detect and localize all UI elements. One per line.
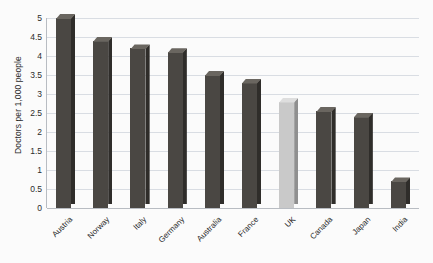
bar-face xyxy=(354,117,369,208)
bar-slot: Norway xyxy=(93,18,112,208)
y-tick-label: 3 xyxy=(37,89,42,99)
bar-uk[interactable] xyxy=(279,102,298,208)
bar-side xyxy=(257,79,261,204)
y-tick-label: 1.5 xyxy=(30,146,42,156)
bar-face xyxy=(56,18,71,208)
bar-side xyxy=(108,37,112,204)
bar-face xyxy=(391,181,406,208)
bar-face xyxy=(205,75,220,208)
bar-face xyxy=(242,83,257,208)
bar-france[interactable] xyxy=(242,83,261,208)
x-tick-label-canada: Canada xyxy=(308,215,334,241)
bar-slot: India xyxy=(391,18,410,208)
y-tick-label: 0.5 xyxy=(30,184,42,194)
x-tick-label-france: France xyxy=(236,215,260,239)
bar-side xyxy=(331,107,335,204)
y-tick-label: 4.5 xyxy=(30,32,42,42)
bar-slot: Germany xyxy=(168,18,187,208)
y-tick-label: 4 xyxy=(37,51,42,61)
x-tick-label-india: India xyxy=(390,215,409,234)
bar-slot: Austria xyxy=(56,18,75,208)
bar-face xyxy=(130,48,145,208)
bar-india[interactable] xyxy=(391,181,410,208)
gridline: 0 xyxy=(47,208,419,209)
bar-side xyxy=(71,14,75,204)
bar-australia[interactable] xyxy=(205,75,224,208)
x-tick-label-australia: Australia xyxy=(195,215,223,243)
y-tick-label: 5 xyxy=(37,13,42,23)
y-tick-label: 0 xyxy=(37,203,42,213)
bar-japan[interactable] xyxy=(354,117,373,208)
bar-slot: UK xyxy=(279,18,298,208)
bar-slot: Australia xyxy=(205,18,224,208)
bar-austria[interactable] xyxy=(56,18,75,208)
bar-chart: Doctors per 1,000 people 54.543.532.521.… xyxy=(0,0,433,263)
x-tick-label-italy: Italy xyxy=(132,215,149,232)
bar-side xyxy=(220,71,224,204)
y-tick-label: 1 xyxy=(37,165,42,175)
bar-slot: Italy xyxy=(130,18,149,208)
y-tick-label: 2 xyxy=(37,127,42,137)
bar-slot: Japan xyxy=(354,18,373,208)
bar-norway[interactable] xyxy=(93,41,112,208)
bar-germany[interactable] xyxy=(168,52,187,208)
bar-slot: Canada xyxy=(316,18,335,208)
bar-series: AustriaNorwayItalyGermanyAustraliaFrance… xyxy=(47,18,419,208)
x-tick-label-uk: UK xyxy=(283,215,297,229)
bar-side xyxy=(183,48,187,204)
bar-face xyxy=(168,52,183,208)
plot-area: 54.543.532.521.510.50 AustriaNorwayItaly… xyxy=(47,18,419,208)
y-axis-title: Doctors per 1,000 people xyxy=(13,25,23,185)
bar-face xyxy=(316,111,331,208)
y-tick-label: 3.5 xyxy=(30,70,42,80)
x-tick-label-japan: Japan xyxy=(350,215,372,237)
y-tick-label: 2.5 xyxy=(30,108,42,118)
x-tick-label-germany: Germany xyxy=(156,215,186,245)
bar-face xyxy=(279,102,294,208)
bar-side xyxy=(294,98,298,204)
bar-side xyxy=(145,44,149,204)
bar-canada[interactable] xyxy=(316,111,335,208)
bar-italy[interactable] xyxy=(130,48,149,208)
bar-face xyxy=(93,41,108,208)
bar-slot: France xyxy=(242,18,261,208)
x-tick-label-austria: Austria xyxy=(50,215,74,239)
x-tick-label-norway: Norway xyxy=(86,215,112,241)
bar-side xyxy=(369,113,373,204)
